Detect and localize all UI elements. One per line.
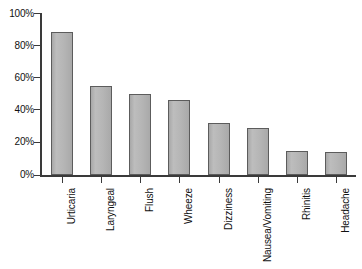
x-tick-label: Nausea/Vomiting (262, 188, 273, 262)
x-tick-label: Rhinitis (301, 188, 312, 220)
x-tick-label: Flush (144, 188, 155, 212)
x-tick-label: Dizziness (223, 188, 234, 230)
x-axis: Urticaria Laryngeal Flush Wheeze Dizzine… (0, 0, 362, 269)
bar-chart: 100% 80% 60% 40% 20% 0% Urticaria Laryng… (0, 0, 362, 269)
x-tick-label: Headache (340, 188, 351, 233)
x-tick-label: Urticaria (66, 188, 77, 224)
x-tick-label: Wheeze (183, 188, 194, 224)
x-tick-label: Laryngeal (105, 188, 116, 231)
